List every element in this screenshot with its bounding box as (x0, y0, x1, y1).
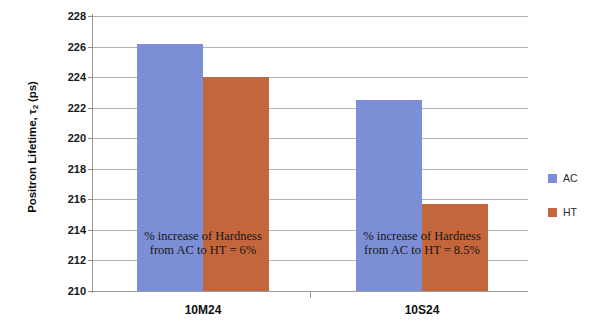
legend-swatch-ht (548, 208, 557, 217)
y-axis-tick-label: 226 (46, 41, 86, 53)
plot-area: % increase of Hardnessfrom AC to HT = 6%… (92, 16, 528, 291)
bar-ht-10m24[interactable] (203, 77, 269, 291)
y-axis-tick-label: 212 (46, 254, 86, 266)
annotation-line-1: % increase of Hardness (332, 229, 512, 243)
legend-swatch-ac (548, 174, 557, 183)
y-axis-tick (88, 199, 93, 200)
y-axis-tick (88, 77, 93, 78)
y-axis-tick-label: 220 (46, 132, 86, 144)
annotation-line-2: from AC to HT = 8.5% (332, 243, 512, 257)
y-axis-tick-label: 210 (46, 285, 86, 297)
legend-item-ac[interactable]: AC (548, 169, 578, 187)
x-axis-label-10m24: 10M24 (153, 303, 253, 317)
legend-item-ht[interactable]: HT (548, 203, 578, 221)
bar-chart: Positron Lifetime, τ2 (ps) 2282262242222… (0, 0, 611, 328)
legend: AC HT (548, 169, 578, 237)
y-axis-tick-label: 224 (46, 71, 86, 83)
y-axis-tick (88, 47, 93, 48)
legend-label-ac: AC (563, 172, 578, 184)
bar-ac-10s24[interactable] (356, 100, 422, 291)
annotation-line-2: from AC to HT = 6% (113, 243, 293, 257)
y-axis-tick-label: 218 (46, 163, 86, 175)
y-axis-title-unit: (ps) (26, 81, 38, 105)
annotation-10s24: % increase of Hardnessfrom AC to HT = 8.… (332, 229, 512, 257)
x-axis-label-10s24: 10S24 (372, 303, 472, 317)
y-axis-tick-label: 228 (46, 10, 86, 22)
y-axis-tick (88, 230, 93, 231)
legend-label-ht: HT (563, 206, 577, 218)
y-axis-title-main: Positron Lifetime, τ (26, 109, 38, 212)
gridline (92, 16, 528, 17)
y-axis-tick-label: 222 (46, 102, 86, 114)
y-axis-tick (88, 16, 93, 17)
annotation-10m24: % increase of Hardnessfrom AC to HT = 6% (113, 229, 293, 257)
y-axis-tick (88, 138, 93, 139)
x-axis-separator-tick (310, 291, 311, 298)
y-axis-tick-label: 216 (46, 193, 86, 205)
annotation-line-1: % increase of Hardness (113, 229, 293, 243)
y-axis-title-subscript: 2 (31, 105, 40, 109)
y-axis-tick-label: 214 (46, 224, 86, 236)
y-axis-tick (88, 260, 93, 261)
y-axis-title: Positron Lifetime, τ2 (ps) (26, 32, 38, 262)
y-axis-tick (88, 108, 93, 109)
y-axis-tick (88, 291, 93, 292)
y-axis-tick (88, 169, 93, 170)
